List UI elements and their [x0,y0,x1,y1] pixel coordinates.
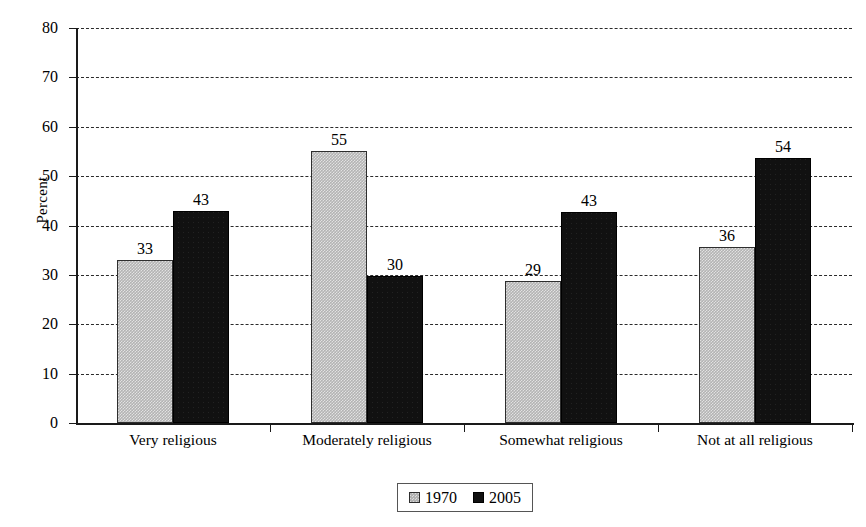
bar-value-label: 33 [137,241,153,257]
y-axis-tick [69,226,78,227]
bar-2005-very-religious: 43 [173,211,229,423]
y-axis-tick-label: 40 [42,218,58,234]
x-axis-tick [852,423,853,432]
y-axis-tick [69,324,78,325]
bar-2005-somewhat-religious: 43 [561,212,617,423]
bar-value-label: 43 [193,192,209,208]
legend-item-1970: 1970 [409,490,457,506]
y-axis-tick-label: 10 [42,366,58,382]
x-axis-category-label: Very religious [129,432,216,448]
bar-2005-not-at-all-religious: 54 [755,158,811,423]
bar-value-label: 55 [331,132,347,148]
bar-value-label: 30 [387,257,403,273]
x-axis-tick [270,423,271,432]
gray-square-icon [409,492,420,503]
legend-label-2005: 2005 [489,490,521,506]
chart-legend: 1970 2005 [397,483,533,512]
bar-value-label: 36 [719,228,735,244]
y-axis-tick-label: 80 [42,20,58,36]
y-axis-tick [69,374,78,375]
x-axis-category-label: Not at all religious [697,432,813,448]
legend-label-1970: 1970 [425,490,457,506]
bar-1970-not-at-all-religious: 36 [699,247,755,423]
gridline [76,77,852,78]
gridline [76,28,852,29]
y-axis-tick-label: 50 [42,168,58,184]
x-axis-tick [464,423,465,432]
bar-value-label: 43 [581,193,597,209]
gridline [76,176,852,177]
y-axis-tick [69,423,78,424]
gridline [76,127,852,128]
y-axis-tick-label: 20 [42,316,58,332]
legend-item-2005: 2005 [473,490,521,506]
bar-chart: Percent 01020304050607080 33435530294336… [0,0,866,527]
plot-area: 01020304050607080 3343553029433654 Very … [76,28,852,423]
bar-1970-moderately-religious: 55 [311,151,367,423]
x-axis-category-label: Somewhat religious [499,432,623,448]
y-axis-tick [69,176,78,177]
y-axis-tick [69,275,78,276]
x-axis-category-label: Moderately religious [302,432,432,448]
bar-value-label: 29 [525,262,541,278]
y-axis-tick-label: 30 [42,267,58,283]
y-axis-tick [69,127,78,128]
y-axis-tick-label: 60 [42,119,58,135]
bar-value-label: 54 [775,139,791,155]
bar-2005-moderately-religious: 30 [367,276,423,423]
bar-1970-very-religious: 33 [117,260,173,423]
x-axis-tick [658,423,659,432]
bar-1970-somewhat-religious: 29 [505,281,561,423]
x-axis-line [76,423,854,425]
y-axis-tick-label: 0 [50,415,58,431]
black-square-icon [473,492,484,503]
y-axis-tick [69,77,78,78]
y-axis-tick [69,28,78,29]
y-axis-tick-label: 70 [42,69,58,85]
